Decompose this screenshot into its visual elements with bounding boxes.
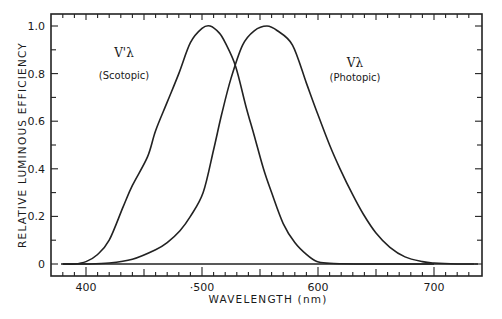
x-axis-title: WAVELENGTH (nm): [209, 293, 328, 305]
scotopic-annotation: V'λ (Scotopic): [99, 46, 150, 81]
photopic-curve: [63, 26, 475, 264]
photopic-label: (Photopic): [330, 72, 381, 83]
y-tick-label: 0.2: [28, 210, 46, 223]
y-tick-label: 0.4: [28, 163, 46, 176]
x-tick-label: 400: [76, 281, 97, 294]
luminous-efficiency-chart: 400·50060070000.20.40.60.81.0 WAVELENGTH…: [0, 0, 502, 319]
scotopic-label: (Scotopic): [99, 70, 150, 81]
scotopic-curve: [63, 26, 434, 265]
x-tick-label: 700: [424, 281, 445, 294]
y-tick-label: 1.0: [28, 20, 46, 33]
photopic-symbol: Vλ: [346, 56, 364, 70]
y-tick-label: 0.8: [28, 68, 46, 81]
y-tick-label: 0: [38, 258, 45, 271]
photopic-annotation: Vλ (Photopic): [330, 56, 381, 83]
curves: [63, 26, 475, 265]
y-axis-title: RELATIVE LUMINOUS EFFICIENCY: [16, 42, 28, 248]
scotopic-symbol: V'λ: [113, 46, 134, 60]
y-tick-label: 0.6: [28, 115, 46, 128]
